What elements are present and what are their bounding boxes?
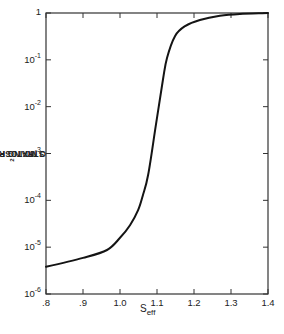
axis-ticks	[46, 13, 268, 294]
x-tick-label: 1.4	[253, 297, 283, 308]
x-tick-label: .9	[68, 297, 98, 308]
chart-area: 110-110-210-310-410-510-6 .8.91.01.11.21…	[0, 0, 284, 334]
y-axis-label-subscript: 2	[9, 158, 15, 161]
x-axis-label: Seff	[140, 303, 155, 317]
y-tick-label: 10-4	[5, 193, 41, 205]
y-tick-label: 10-5	[5, 240, 41, 252]
y-tick-label: 10-2	[5, 100, 41, 112]
x-tick-label: 1.3	[216, 297, 246, 308]
plot-frame	[46, 13, 268, 294]
x-tick-label: .8	[31, 297, 61, 308]
x-axis-label-subscript: eff	[147, 308, 156, 317]
x-tick-label: 1.2	[179, 297, 209, 308]
data-line	[46, 13, 268, 267]
y-tick-label: 10-1	[5, 53, 41, 65]
y-tick-label: 1	[5, 6, 41, 17]
y-axis-label-part2: O MIXING RATIO, v/v	[0, 149, 46, 158]
x-tick-label: 1.0	[105, 297, 135, 308]
x-axis-label-main: S	[140, 303, 147, 314]
plot-svg	[0, 0, 284, 334]
